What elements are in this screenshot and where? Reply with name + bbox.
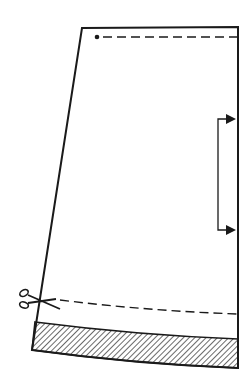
cut-line: [60, 300, 238, 314]
arrow-right-icon: [226, 225, 236, 235]
pattern-canvas: [0, 0, 252, 385]
grainline-arrow: [218, 114, 236, 235]
sewing-pattern-diagram: [0, 0, 252, 385]
pattern-outline: [32, 27, 238, 368]
waist-dot-marker: [95, 35, 100, 40]
arrow-right-icon: [226, 114, 236, 124]
